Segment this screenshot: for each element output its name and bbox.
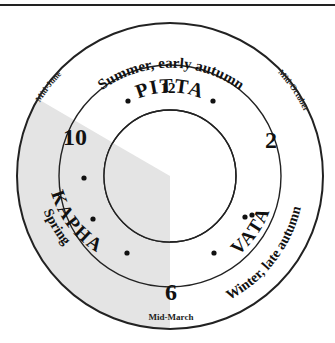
dot-8 xyxy=(90,216,95,221)
dot-5 xyxy=(211,250,216,255)
dosha-pitta-text: PITTA xyxy=(133,74,208,102)
boundary-october-label: Mid-October xyxy=(276,67,311,113)
dosha-clock-diagram: 12 2 6 10 Summer, early autumn PITTA KAP… xyxy=(0,0,335,343)
boundary-june-label: Mid-June xyxy=(33,69,63,104)
dot-1 xyxy=(210,98,215,103)
hour-10: 10 xyxy=(63,124,87,150)
dot-7 xyxy=(124,250,129,255)
dosha-pitta-label: PITTA xyxy=(133,74,208,102)
dot-9 xyxy=(81,175,86,180)
dot-11 xyxy=(125,98,130,103)
boundary-june-text: Mid-June xyxy=(33,69,63,104)
dot-4b xyxy=(242,214,247,219)
hour-6: 6 xyxy=(165,279,177,305)
hour-2: 2 xyxy=(265,127,277,153)
boundary-october-text: Mid-October xyxy=(276,67,311,113)
boundary-march-label: Mid-March xyxy=(149,312,194,322)
